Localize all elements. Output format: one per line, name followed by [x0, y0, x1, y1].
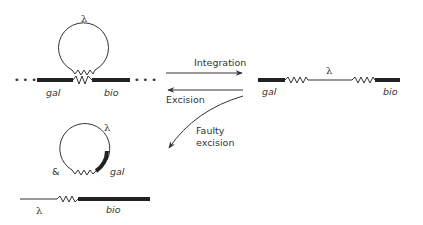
- lambda-diagram: • • • • • • λ gal bio Integration Excisi…: [0, 0, 423, 225]
- gal-label: gal: [46, 87, 61, 98]
- integrated-left-zigzag: [285, 77, 308, 83]
- faulty-label-line2: excision: [196, 137, 234, 148]
- faulty-products-group: & λ gal λ bio: [20, 122, 150, 216]
- circle-gal-label: gal: [110, 166, 125, 177]
- excision-label: Excision: [166, 94, 205, 105]
- reaction-arrows: Integration Excision Faulty excision: [166, 57, 246, 148]
- lambda-gal-circle-zigzag: [72, 170, 96, 175]
- linear-bio-label: bio: [106, 204, 121, 215]
- integrated-bio-label: bio: [383, 86, 398, 97]
- faulty-label-line1: Faulty: [196, 125, 225, 136]
- lambda-gal-circle-gal-segment: [96, 151, 107, 171]
- pre-integration-group: • • • • • • λ gal bio: [14, 13, 157, 98]
- ampersand-label: &: [52, 166, 60, 177]
- integration-label: Integration: [194, 57, 246, 68]
- ellipsis-left: • • •: [14, 74, 37, 85]
- chromosome-att-zigzag: [73, 76, 92, 84]
- lambda-att-zigzag: [72, 70, 95, 75]
- bio-label: bio: [104, 87, 119, 98]
- integrated-right-zigzag: [352, 77, 375, 83]
- circle-lambda-label: λ: [104, 122, 111, 133]
- ellipsis-right: • • •: [134, 74, 157, 85]
- integrated-gal-label: gal: [262, 86, 277, 97]
- lambda-label: λ: [81, 13, 88, 24]
- lambda-circle: [59, 23, 109, 70]
- integrated-prophage-group: λ gal bio: [258, 65, 400, 97]
- integrated-lambda-label: λ: [326, 65, 333, 76]
- linear-zigzag: [57, 196, 78, 202]
- linear-lambda-label: λ: [36, 205, 43, 216]
